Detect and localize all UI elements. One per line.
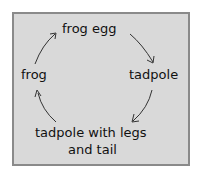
arrow-legs-to-frog bbox=[38, 93, 56, 122]
arrow-frog-to-egg bbox=[35, 34, 55, 64]
cycle-arrows bbox=[0, 0, 199, 176]
arrow-egg-to-tadpole bbox=[130, 34, 153, 62]
arrow-tadpole-to-legs bbox=[133, 90, 152, 121]
